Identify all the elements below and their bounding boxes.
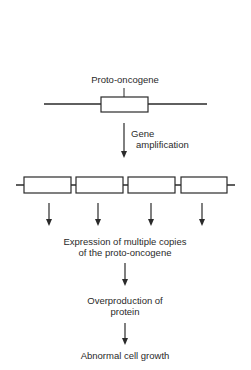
outcome-label: Abnormal cell growth [81, 350, 170, 361]
overproduction-label-line2: protein [110, 306, 139, 317]
outcome-arrow [122, 323, 128, 345]
gene-copy-box-2 [76, 177, 123, 193]
gene-copy-box-1 [24, 177, 71, 193]
gene-copy-box-4 [181, 177, 227, 193]
amplification-arrow [121, 123, 127, 158]
proto-oncogene-dna [44, 88, 207, 112]
expression-label-line2: of the proto-oncogene [79, 247, 172, 258]
expression-label-line1: Expression of multiple copies [63, 236, 186, 247]
gene-amplification-label-line2: amplification [136, 139, 189, 150]
gene-box [101, 97, 148, 112]
proto-oncogene-label: Proto-oncogene [91, 74, 159, 85]
gene-amplification-label-line1: Gene [131, 128, 154, 139]
overproduction-label-line1: Overproduction of [87, 295, 163, 306]
overproduction-arrow [122, 263, 128, 286]
expression-arrows [46, 203, 205, 226]
amplified-dna [16, 177, 235, 193]
gene-copy-box-3 [128, 177, 175, 193]
